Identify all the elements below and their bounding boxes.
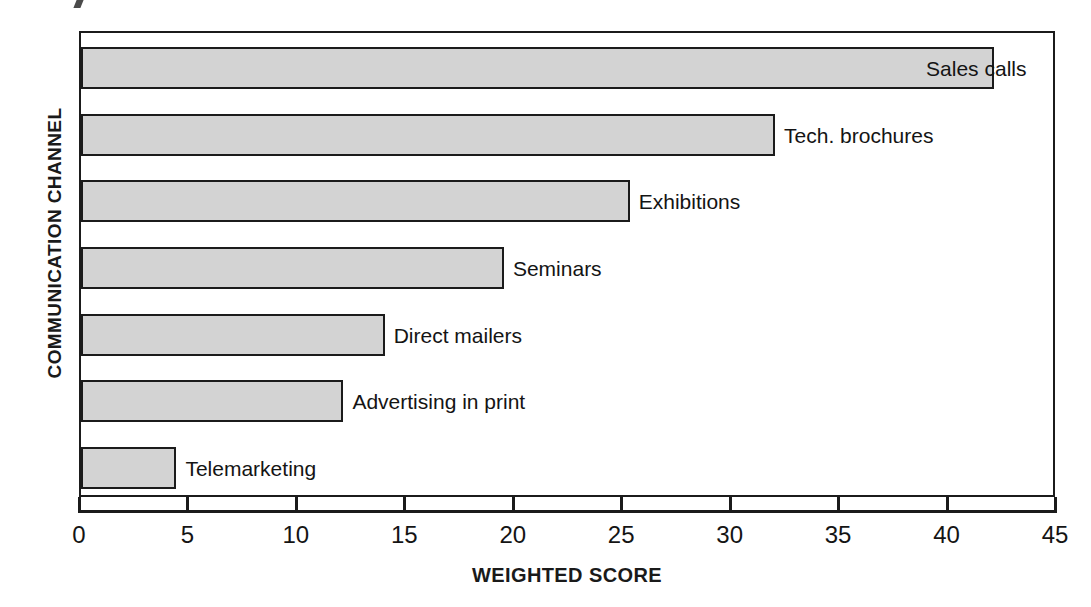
- x-axis-tick-label: 40: [912, 521, 982, 549]
- x-axis-tick-label: 20: [478, 521, 548, 549]
- x-axis-tick: [946, 497, 949, 513]
- bar-label: Sales calls: [926, 58, 1026, 79]
- y-axis-title: COMMUNICATION CHANNEL: [44, 8, 66, 478]
- x-axis-tick-label: 45: [1020, 521, 1090, 549]
- bar: [81, 380, 343, 422]
- bar-row: Telemarketing: [81, 447, 1057, 489]
- x-axis-tick: [403, 497, 406, 513]
- bar: [81, 114, 775, 156]
- bar: [81, 314, 385, 356]
- x-axis-tick-label: 25: [586, 521, 656, 549]
- bar-label: Advertising in print: [352, 391, 525, 412]
- bar: [81, 247, 504, 289]
- bar: [81, 447, 176, 489]
- x-axis-tick-label: 35: [803, 521, 873, 549]
- bar-row: Tech. brochures: [81, 114, 1057, 156]
- bar-row: Exhibitions: [81, 180, 1057, 222]
- x-axis-title: WEIGHTED SCORE: [79, 564, 1055, 587]
- bar-row: Direct mailers: [81, 314, 1057, 356]
- x-axis-tick: [295, 497, 298, 513]
- bar-row: Advertising in print: [81, 380, 1057, 422]
- bar-label: Direct mailers: [394, 325, 522, 346]
- x-axis-tick: [186, 497, 189, 513]
- x-axis-line: [79, 510, 1055, 513]
- bar-row: Seminars: [81, 247, 1057, 289]
- x-axis-tick-label: 30: [695, 521, 765, 549]
- bar-row: Sales calls: [81, 47, 1057, 89]
- bar: [81, 180, 630, 222]
- bar-chart: COMMUNICATION CHANNEL Sales callsTech. b…: [0, 0, 1091, 607]
- x-axis-tick: [729, 497, 732, 513]
- scan-artifact-speck: [73, 0, 83, 8]
- x-axis-tick-label: 10: [261, 521, 331, 549]
- bar-label: Telemarketing: [185, 458, 316, 479]
- plot-area: Sales callsTech. brochuresExhibitionsSem…: [79, 31, 1055, 497]
- x-axis-tick: [512, 497, 515, 513]
- x-axis-tick-label: 0: [44, 521, 114, 549]
- bar-label: Exhibitions: [639, 191, 741, 212]
- x-axis-tick: [620, 497, 623, 513]
- x-axis-tick-label: 15: [369, 521, 439, 549]
- x-axis-tick: [1054, 497, 1057, 513]
- x-axis-tick: [837, 497, 840, 513]
- bar: [81, 47, 994, 89]
- bar-label: Tech. brochures: [784, 125, 933, 146]
- bar-label: Seminars: [513, 258, 602, 279]
- x-axis-tick: [78, 497, 81, 513]
- x-axis-tick-label: 5: [152, 521, 222, 549]
